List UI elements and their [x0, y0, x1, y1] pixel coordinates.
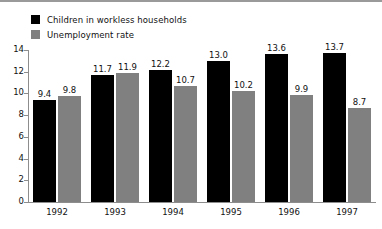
legend-label: Unemployment rate — [47, 30, 134, 40]
bar-group: 13.69.9 — [265, 50, 313, 202]
bar: 13.7 — [323, 53, 346, 202]
x-tick-label: 1992 — [28, 207, 86, 217]
bar-group: 13.010.2 — [207, 50, 255, 202]
y-tick-label: 8 — [19, 109, 24, 119]
bar: 10.7 — [174, 86, 197, 202]
bar-value-label: 10.2 — [234, 80, 253, 90]
y-tick-label: 4 — [19, 153, 24, 163]
y-tick-label: 12 — [13, 66, 24, 76]
chart-legend: Children in workless households Unemploy… — [31, 13, 187, 43]
gray-square-icon — [31, 30, 40, 39]
bar-value-label: 11.9 — [118, 62, 137, 72]
bar-value-label: 9.8 — [63, 85, 77, 95]
y-tick-label: 2 — [19, 174, 24, 184]
y-tick-label: 0 — [19, 196, 24, 206]
bar: 10.2 — [232, 91, 255, 202]
black-square-icon — [31, 15, 40, 24]
y-tick-mark — [24, 115, 28, 116]
y-tick-mark — [24, 137, 28, 138]
bar-value-label: 8.7 — [353, 97, 367, 107]
bar-group: 12.210.7 — [149, 50, 197, 202]
plot-area: 02468101214 9.49.811.711.912.210.713.010… — [28, 50, 376, 202]
y-tick-mark — [24, 93, 28, 94]
bar: 11.9 — [116, 73, 139, 202]
x-tick-label: 1993 — [86, 207, 144, 217]
legend-item-unemployment-rate: Unemployment rate — [31, 28, 187, 41]
bar-value-label: 9.9 — [295, 84, 309, 94]
bar: 11.7 — [91, 75, 114, 202]
bar: 9.9 — [290, 95, 313, 202]
bar-value-label: 9.4 — [38, 89, 52, 99]
bar: 13.0 — [207, 61, 230, 202]
bar: 8.7 — [348, 108, 371, 202]
bar-chart: Children in workless households Unemploy… — [0, 0, 382, 229]
bar-group: 9.49.8 — [33, 50, 81, 202]
x-axis-line — [28, 202, 376, 203]
bar: 12.2 — [149, 70, 172, 202]
bar-value-label: 13.0 — [209, 50, 228, 60]
legend-label: Children in workless households — [47, 15, 187, 25]
y-tick-mark — [24, 202, 28, 203]
x-tick-label: 1994 — [144, 207, 202, 217]
y-tick-label: 6 — [19, 131, 24, 141]
bar: 9.4 — [33, 100, 56, 202]
x-tick-label: 1995 — [202, 207, 260, 217]
bar: 9.8 — [58, 96, 81, 202]
y-tick-label: 14 — [13, 44, 24, 54]
bar: 13.6 — [265, 54, 288, 202]
y-tick-mark — [24, 72, 28, 73]
x-tick-label: 1997 — [318, 207, 376, 217]
y-tick-label: 10 — [13, 87, 24, 97]
bar-value-label: 12.2 — [151, 59, 170, 69]
bar-value-label: 10.7 — [176, 75, 195, 85]
bar-value-label: 13.6 — [267, 43, 286, 53]
bar-group: 13.78.7 — [323, 50, 371, 202]
y-tick-mark — [24, 159, 28, 160]
x-tick-label: 1996 — [260, 207, 318, 217]
y-axis-line — [28, 50, 29, 202]
y-tick-mark — [24, 50, 28, 51]
y-tick-mark — [24, 180, 28, 181]
bar-value-label: 13.7 — [325, 42, 344, 52]
bar-value-label: 11.7 — [93, 64, 112, 74]
bar-group: 11.711.9 — [91, 50, 139, 202]
legend-item-children-in-workless-households: Children in workless households — [31, 13, 187, 26]
